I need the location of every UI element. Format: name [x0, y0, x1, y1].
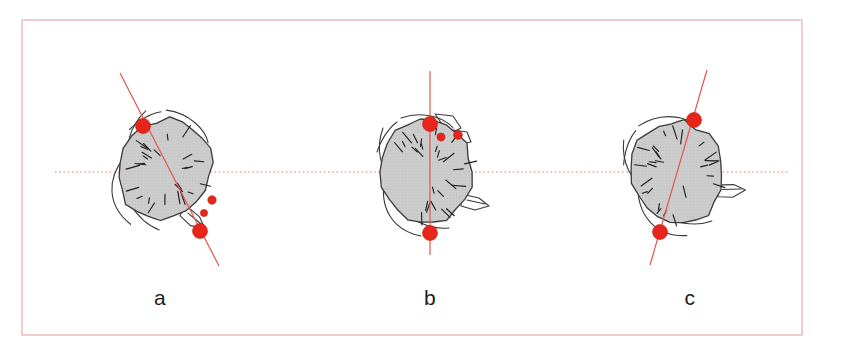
suture-mark — [454, 169, 464, 170]
suture-mark — [649, 162, 656, 163]
marker-lower-b — [423, 226, 438, 241]
panel-caption-c: c — [685, 286, 696, 309]
suture-mark — [167, 134, 168, 140]
panel-caption-a: a — [154, 286, 166, 309]
hand-crease-c — [723, 189, 741, 190]
marker-ear-outer-b — [454, 131, 463, 140]
panel-c — [623, 70, 745, 265]
figure-container: a b c — [0, 0, 846, 353]
marker-lower-a — [193, 224, 208, 239]
panel-a — [112, 73, 219, 266]
figure-canvas: a b c — [0, 0, 846, 353]
panel-caption-b: b — [424, 286, 436, 309]
panel-b — [377, 71, 489, 255]
marker-lower-c — [653, 225, 668, 240]
marker-ear-upper-a — [208, 196, 216, 204]
marker-ear-inner-b — [437, 133, 445, 141]
marker-upper-b — [423, 117, 438, 132]
marker-ear-lower-a — [200, 209, 207, 216]
panels-group — [112, 70, 746, 266]
cranium-a — [119, 117, 213, 221]
marker-upper-c — [687, 113, 702, 128]
marker-upper-a — [136, 119, 151, 134]
